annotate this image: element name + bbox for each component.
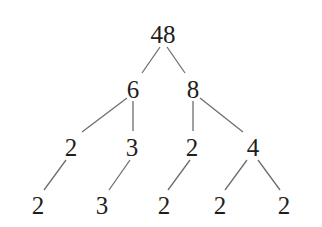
tree-node-n3b: 3	[96, 192, 109, 219]
tree-edge-n4-n2e	[225, 160, 247, 190]
tree-edge-n2a-n2c	[44, 160, 66, 190]
tree-edges	[44, 47, 280, 190]
tree-node-n2b: 2	[186, 134, 199, 161]
tree-node-n6: 6	[127, 76, 140, 103]
tree-edge-n3a-n3b	[109, 160, 130, 190]
tree-edge-n48-n6	[142, 47, 160, 73]
tree-node-n2d: 2	[158, 192, 171, 219]
tree-node-n2c: 2	[32, 192, 45, 219]
tree-edge-n48-n8	[167, 47, 185, 73]
tree-node-n4: 4	[247, 134, 260, 161]
tree-edge-n8-n4	[200, 98, 243, 132]
tree-node-n8: 8	[187, 76, 200, 103]
tree-edge-n6-n2a	[82, 98, 127, 132]
tree-node-n48: 48	[151, 21, 176, 48]
tree-node-n2a: 2	[65, 134, 78, 161]
tree-node-n2e: 2	[214, 192, 227, 219]
tree-node-n3a: 3	[126, 134, 139, 161]
factor-tree-diagram: 4868232423222	[0, 0, 322, 227]
tree-edge-n2b-n2d	[168, 160, 190, 190]
tree-nodes: 4868232423222	[32, 21, 291, 219]
tree-node-n2f: 2	[278, 192, 291, 219]
tree-edge-n4-n2f	[258, 160, 280, 190]
